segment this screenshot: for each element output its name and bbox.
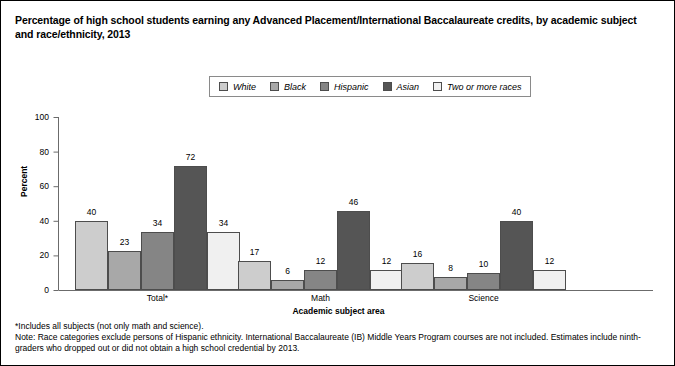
plot-area: Percent 020406080100 4023347234176124612… bbox=[1, 1, 675, 366]
bar-value-label: 12 bbox=[533, 257, 566, 266]
bar bbox=[174, 166, 207, 291]
bar-value-label: 23 bbox=[108, 238, 141, 247]
bar bbox=[370, 270, 403, 291]
bar bbox=[304, 270, 337, 291]
y-tick-label: 80 bbox=[27, 148, 49, 157]
y-tick-label: 60 bbox=[27, 182, 49, 191]
bar-value-label: 40 bbox=[75, 208, 108, 217]
bar bbox=[434, 277, 467, 291]
bar-value-label: 17 bbox=[238, 248, 271, 257]
bar-value-label: 12 bbox=[304, 257, 337, 266]
x-axis-title: Academic subject area bbox=[1, 306, 675, 316]
bar bbox=[533, 270, 566, 291]
bar bbox=[467, 273, 500, 290]
footnote-asterisk: *Includes all subjects (not only math an… bbox=[15, 321, 665, 332]
bar bbox=[207, 232, 240, 291]
bar bbox=[337, 211, 370, 291]
bar-value-label: 34 bbox=[141, 219, 174, 228]
x-group-label: Total* bbox=[108, 294, 208, 303]
footnote-note: Note: Race categories exclude persons of… bbox=[15, 332, 665, 354]
bar-value-label: 72 bbox=[174, 153, 207, 162]
y-tick-label: 100 bbox=[27, 113, 49, 122]
x-group-label: Math bbox=[271, 294, 371, 303]
bar bbox=[75, 221, 108, 290]
bar-value-label: 34 bbox=[207, 219, 240, 228]
bar bbox=[401, 263, 434, 291]
bar bbox=[238, 261, 271, 290]
y-tick-label: 20 bbox=[27, 251, 49, 260]
bar bbox=[500, 221, 533, 290]
bar bbox=[108, 251, 141, 291]
footnotes: *Includes all subjects (not only math an… bbox=[15, 321, 665, 355]
bar-value-label: 12 bbox=[370, 257, 403, 266]
bar-value-label: 40 bbox=[500, 208, 533, 217]
chart-figure: Percentage of high school students earni… bbox=[0, 0, 675, 366]
bar-value-label: 8 bbox=[434, 264, 467, 273]
bar bbox=[141, 232, 174, 291]
bar bbox=[271, 280, 304, 290]
bar-value-label: 10 bbox=[467, 260, 500, 269]
y-tick-label: 0 bbox=[27, 286, 49, 295]
x-group-label: Science bbox=[434, 294, 534, 303]
y-tick-label: 40 bbox=[27, 217, 49, 226]
bar-value-label: 46 bbox=[337, 198, 370, 207]
bar-value-label: 6 bbox=[271, 267, 304, 276]
bar-value-label: 16 bbox=[401, 250, 434, 259]
